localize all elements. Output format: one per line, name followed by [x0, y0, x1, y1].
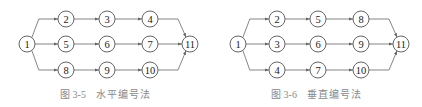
svg-text:6: 6 — [315, 39, 320, 50]
node-6: 6 — [99, 36, 115, 52]
svg-text:3: 3 — [274, 39, 279, 50]
caption-label: 图 3-6 — [271, 89, 297, 100]
node-9: 9 — [99, 62, 115, 78]
edge-1-to-2 — [243, 19, 269, 38]
node-1: 1 — [230, 36, 246, 52]
node-2: 2 — [58, 11, 74, 27]
caption-label: 图 3-5 — [60, 89, 86, 100]
svg-text:8: 8 — [358, 14, 363, 25]
edge-8-to-11 — [369, 19, 397, 37]
svg-text:6: 6 — [104, 39, 109, 50]
caption-title: 垂直编号法 — [307, 89, 362, 100]
node-5: 5 — [310, 11, 326, 27]
svg-text:1: 1 — [235, 39, 240, 50]
node-11: 11 — [393, 36, 409, 52]
node-10: 10 — [142, 62, 158, 78]
figure-3-5-horizontal-numbering: 1234567891011 图 3-5水平编号法 — [0, 0, 211, 107]
node-7: 7 — [310, 62, 326, 78]
svg-text:5: 5 — [63, 39, 68, 50]
svg-text:10: 10 — [356, 65, 367, 76]
figure-caption: 图 3-6垂直编号法 — [211, 86, 422, 101]
svg-text:1: 1 — [24, 39, 29, 50]
node-3: 3 — [269, 36, 285, 52]
svg-text:4: 4 — [274, 65, 280, 76]
svg-text:7: 7 — [147, 39, 152, 50]
figure-caption: 图 3-5水平编号法 — [0, 86, 211, 101]
node-5: 5 — [58, 36, 74, 52]
svg-text:10: 10 — [145, 65, 156, 76]
node-11: 11 — [182, 36, 198, 52]
caption-title: 水平编号法 — [96, 89, 151, 100]
network-diagram-horizontal: 1234567891011 — [0, 0, 211, 86]
node-8: 8 — [353, 11, 369, 27]
svg-text:8: 8 — [63, 65, 68, 76]
svg-text:2: 2 — [274, 14, 279, 25]
svg-text:11: 11 — [396, 39, 406, 50]
node-3: 3 — [99, 11, 115, 27]
node-4: 4 — [142, 11, 158, 27]
svg-text:9: 9 — [104, 65, 109, 76]
svg-text:2: 2 — [63, 14, 68, 25]
node-6: 6 — [310, 36, 326, 52]
node-10: 10 — [353, 62, 369, 78]
svg-text:11: 11 — [185, 39, 195, 50]
network-diagram-vertical: 1258369471011 — [211, 0, 422, 86]
edge-1-to-2 — [32, 19, 58, 38]
svg-text:7: 7 — [315, 65, 320, 76]
edge-10-to-11 — [369, 51, 397, 70]
node-9: 9 — [353, 36, 369, 52]
edge-10-to-11 — [158, 51, 186, 70]
svg-text:5: 5 — [315, 14, 320, 25]
node-2: 2 — [269, 11, 285, 27]
figure-3-6-vertical-numbering: 1258369471011 图 3-6垂直编号法 — [211, 0, 422, 107]
svg-text:9: 9 — [358, 39, 363, 50]
svg-text:3: 3 — [104, 14, 109, 25]
svg-text:4: 4 — [147, 14, 153, 25]
node-8: 8 — [58, 62, 74, 78]
edge-4-to-11 — [158, 19, 186, 37]
node-1: 1 — [19, 36, 35, 52]
edge-1-to-4 — [243, 50, 269, 70]
edge-1-to-8 — [32, 50, 58, 70]
node-7: 7 — [142, 36, 158, 52]
node-4: 4 — [269, 62, 285, 78]
